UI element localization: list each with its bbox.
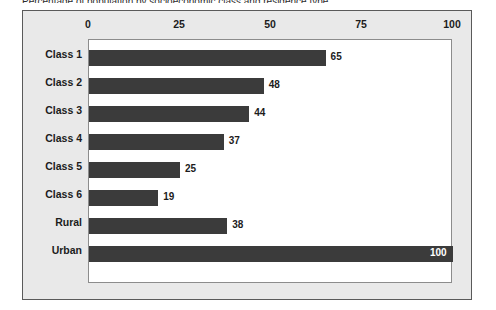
bar-value-class-6: 19 — [163, 191, 174, 202]
bar-row: Class 248 — [0, 78, 496, 94]
bar-class-2 — [89, 78, 264, 94]
x-axis-tick-labels: 0255075100 — [0, 18, 496, 34]
x-tick-label-75: 75 — [355, 18, 367, 30]
bar-class-6 — [89, 190, 158, 206]
x-tick-label-50: 50 — [264, 18, 276, 30]
category-label-class-3: Class 3 — [45, 104, 82, 116]
category-label-class-6: Class 6 — [45, 188, 82, 200]
bar-class-1 — [89, 50, 326, 66]
bar-urban — [89, 246, 453, 262]
chart-figure: Percentage of population by socioeconomi… — [0, 0, 496, 310]
bar-row: Class 619 — [0, 190, 496, 206]
category-label-rural: Rural — [55, 216, 82, 228]
x-tick-label-0: 0 — [85, 18, 91, 30]
bar-row: Rural38 — [0, 218, 496, 234]
x-tick-label-25: 25 — [173, 18, 185, 30]
bar-row: Class 437 — [0, 134, 496, 150]
bar-value-class-2: 48 — [269, 79, 280, 90]
bar-value-class-5: 25 — [185, 163, 196, 174]
category-label-urban: Urban — [52, 244, 82, 256]
category-label-class-2: Class 2 — [45, 76, 82, 88]
bar-rural — [89, 218, 227, 234]
bar-row: Class 165 — [0, 50, 496, 66]
category-label-class-4: Class 4 — [45, 132, 82, 144]
bar-value-class-3: 44 — [254, 107, 265, 118]
bar-row: Class 344 — [0, 106, 496, 122]
bar-value-class-4: 37 — [229, 135, 240, 146]
bar-value-class-1: 65 — [331, 51, 342, 62]
cut-off-caption: Percentage of population by socioeconomi… — [22, 0, 472, 3]
category-label-class-1: Class 1 — [45, 48, 82, 60]
bar-value-urban: 100 — [430, 247, 447, 258]
bar-class-3 — [89, 106, 249, 122]
bar-class-5 — [89, 162, 180, 178]
x-tick-label-100: 100 — [443, 18, 461, 30]
bar-rows: Class 165Class 248Class 344Class 437Clas… — [0, 39, 496, 283]
bar-class-4 — [89, 134, 224, 150]
bar-row: Class 525 — [0, 162, 496, 178]
category-label-class-5: Class 5 — [45, 160, 82, 172]
bar-row: Urban100 — [0, 246, 496, 262]
bar-value-rural: 38 — [232, 219, 243, 230]
